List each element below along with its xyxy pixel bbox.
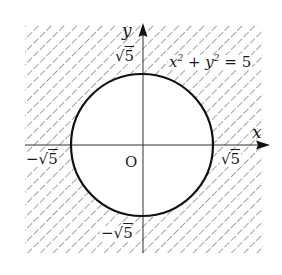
eq-plus: + xyxy=(183,53,205,71)
radical-icon: √ xyxy=(221,150,231,168)
x-axis-label: x xyxy=(251,124,263,141)
eq-y-var: y xyxy=(205,53,213,71)
tick-y-neg-sqrt5: −√5 xyxy=(100,226,134,241)
radical-icon: √ xyxy=(115,47,125,65)
tick-y-pos-sqrt5: √5 xyxy=(114,49,135,64)
tick-x-neg-sqrt5: −√5 xyxy=(25,152,59,167)
radicand: 5 xyxy=(231,150,241,168)
diagram-canvas xyxy=(0,0,282,275)
circle-region-diagram: y x O x2 + y2 = 5 √5 −√5 √5 −√5 xyxy=(0,0,282,275)
radicand: 5 xyxy=(48,150,58,168)
tick-x-pos-sqrt5: √5 xyxy=(220,152,241,167)
equation-label: x2 + y2 = 5 xyxy=(168,55,252,70)
y-axis-label: y xyxy=(121,22,133,39)
radical-icon: √ xyxy=(39,150,49,168)
radicand: 5 xyxy=(125,47,135,65)
minus-sign: − xyxy=(101,224,114,242)
minus-sign: − xyxy=(26,150,39,168)
eq-rhs: = 5 xyxy=(220,53,252,71)
radicand: 5 xyxy=(123,224,133,242)
origin-label: O xyxy=(124,155,138,170)
radical-icon: √ xyxy=(114,224,124,242)
